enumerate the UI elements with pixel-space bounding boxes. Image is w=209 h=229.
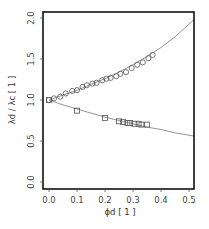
x-axis-label: ϕd [ 1 ] bbox=[104, 207, 135, 217]
x-axis-ticks: 0.00.10.20.30.40.5 bbox=[42, 189, 196, 205]
y-tick-label: 2.0 bbox=[26, 11, 36, 25]
circle-marker bbox=[118, 71, 123, 76]
y-tick-label: 1.5 bbox=[26, 52, 36, 66]
plot-frame bbox=[43, 12, 194, 189]
x-tick-label: 0.1 bbox=[70, 195, 84, 205]
y-tick-label: 0.5 bbox=[26, 134, 36, 148]
circle-marker bbox=[123, 70, 128, 75]
x-tick-label: 0.5 bbox=[182, 195, 196, 205]
y-tick-label: 0.0 bbox=[26, 175, 36, 189]
x-tick-label: 0.4 bbox=[154, 195, 168, 205]
upper-fit-curve bbox=[49, 20, 194, 100]
x-tick-label: 0.2 bbox=[98, 195, 112, 205]
circle-marker bbox=[140, 60, 145, 65]
circle-marker bbox=[129, 65, 134, 70]
y-tick-label: 1.0 bbox=[26, 93, 36, 107]
x-tick-label: 0.0 bbox=[42, 195, 56, 205]
y-axis-label: λd / λc [ 1 ] bbox=[7, 76, 17, 125]
lower-fit-curve bbox=[49, 100, 194, 136]
x-tick-label: 0.3 bbox=[126, 195, 140, 205]
chart: 0.00.51.01.52.0 0.00.10.20.30.40.5 ϕd [ … bbox=[0, 0, 209, 229]
y-axis-ticks: 0.00.51.01.52.0 bbox=[26, 11, 43, 189]
circle-marker bbox=[135, 62, 140, 67]
